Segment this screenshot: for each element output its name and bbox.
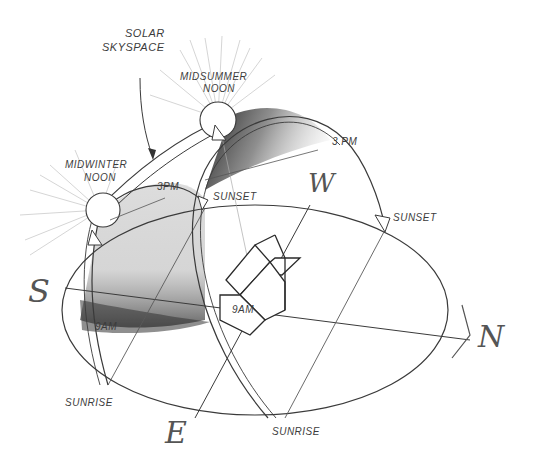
- midsummer-noon-label-2: NOON: [203, 84, 235, 94]
- midwinter-noon-label-1: MIDWINTER: [65, 160, 127, 170]
- compass-west: W: [308, 170, 335, 196]
- summer-sunset-arrowhead: [375, 215, 390, 232]
- solar-skyspace-label-2: SKYSPACE: [102, 42, 165, 53]
- compass-east: E: [165, 418, 187, 448]
- north-arrow: [452, 305, 470, 358]
- compass-south: S: [28, 275, 50, 307]
- winter-sunrise-label: SUNRISE: [65, 398, 113, 408]
- summer-sunset-label: SUNSET: [393, 213, 437, 223]
- midwinter-sun: [86, 193, 120, 227]
- winter-sunset-label: SUNSET: [213, 192, 257, 202]
- winter-9am-label: 9AM: [95, 322, 117, 332]
- summer-9am-label: 9AM: [232, 305, 254, 315]
- midsummer-noon-label-1: MIDSUMMER: [180, 72, 247, 82]
- solar-skyspace-label-1: SOLAR: [125, 28, 165, 39]
- winter-3pm-label: 3PM: [157, 182, 179, 192]
- compass-north: N: [478, 322, 504, 352]
- summer-3pm-label: 3 PM: [332, 137, 357, 147]
- house: [220, 235, 300, 335]
- skyspace-pointer: [140, 78, 152, 155]
- midwinter-noon-label-2: NOON: [84, 173, 116, 183]
- summer-sunrise-label: SUNRISE: [272, 427, 320, 437]
